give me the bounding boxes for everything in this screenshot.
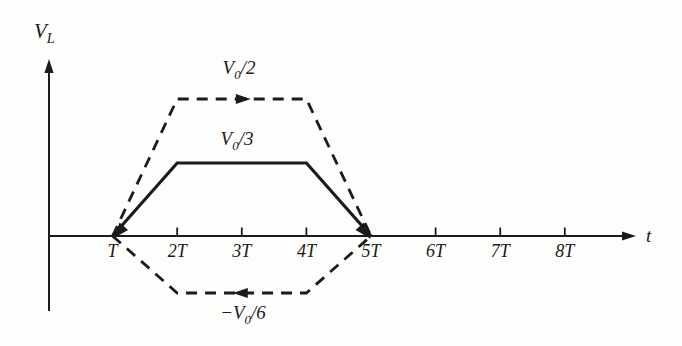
series-lower-envelope-direction-arrow xyxy=(233,288,248,298)
x-tick-label: 4T xyxy=(297,242,316,260)
label-minus-v0-over-6-prefix: − xyxy=(220,302,233,323)
series-inductor-voltage-line xyxy=(113,163,371,236)
label-v0-over-2: V0/2 xyxy=(223,58,256,82)
y-axis-label-main: V xyxy=(34,19,47,43)
label-minus-v0-over-6: −V0/6 xyxy=(220,303,266,327)
x-tick-label: 2T xyxy=(168,242,187,260)
label-v0-over-3-rest: /3 xyxy=(239,128,254,149)
label-minus-v0-over-6-rest: /6 xyxy=(251,302,266,323)
x-tick-label: 6T xyxy=(426,242,445,260)
label-v0-over-2-main: V xyxy=(223,57,235,78)
series-upper-envelope-line xyxy=(113,99,371,236)
label-v0-over-2-rest: /2 xyxy=(241,57,256,78)
x-tick-label: T xyxy=(108,242,118,260)
label-minus-v0-over-6-main: V xyxy=(233,302,245,323)
x-tick-label: 7T xyxy=(491,242,510,260)
label-v0-over-3-main: V xyxy=(221,128,233,149)
y-axis-label-sub: L xyxy=(47,30,55,46)
x-tick-label: 3T xyxy=(232,242,251,260)
x-tick-label: 8T xyxy=(555,242,574,260)
x-axis-label: t xyxy=(646,226,651,245)
series-upper-envelope-direction-arrow xyxy=(236,94,251,104)
waveform-figure: VL t V0/2 V0/3 −V0/6 T2T3T4T5T6T7T8T xyxy=(0,0,682,346)
x-tick-label: 5T xyxy=(361,242,380,260)
x-axis-arrowhead xyxy=(622,231,636,240)
y-axis-label: VL xyxy=(34,21,55,45)
y-axis-arrowhead xyxy=(44,59,53,73)
waveform-plot xyxy=(0,0,682,346)
label-v0-over-3: V0/3 xyxy=(221,129,254,153)
